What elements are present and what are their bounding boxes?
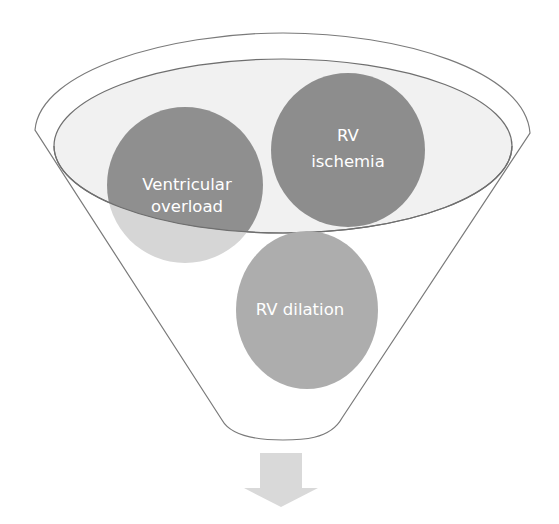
label-ventricular: Ventricular: [142, 175, 232, 194]
circle-ventricular-overload: Ventricular overload: [107, 107, 263, 263]
label-ischemia: ischemia: [311, 152, 385, 171]
down-arrow-icon: [244, 453, 318, 507]
circle-rv-dilation: RV dilation: [236, 231, 378, 389]
label-rv: RV: [337, 126, 360, 145]
label-overload: overload: [151, 197, 223, 216]
funnel-diagram: Ventricular overload RV ischemia RV dila…: [0, 0, 559, 524]
label-rv-dilation: RV dilation: [256, 300, 344, 319]
circle-rv-ischemia: RV ischemia: [271, 73, 425, 227]
